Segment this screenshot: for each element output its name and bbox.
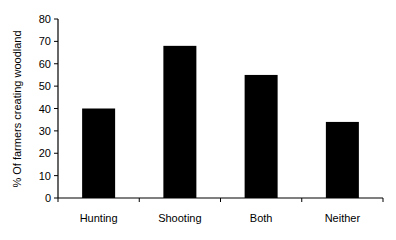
y-tick-label: 40: [39, 103, 51, 115]
y-tick-label: 30: [39, 125, 51, 137]
x-category-label: Hunting: [80, 212, 118, 224]
x-category-label: Neither: [325, 212, 361, 224]
y-tick-label: 60: [39, 58, 51, 70]
y-tick-label: 20: [39, 147, 51, 159]
bar-hunting: [82, 109, 115, 199]
y-axis: 01020304050607080: [39, 13, 58, 204]
bar-shooting: [163, 46, 196, 198]
x-category-label: Shooting: [158, 212, 201, 224]
y-tick-label: 80: [39, 13, 51, 25]
bar-neither: [326, 122, 359, 198]
y-axis-label: % Of farmers creating woodland: [11, 30, 23, 187]
bar-both: [245, 75, 278, 198]
bars: [82, 46, 359, 198]
y-tick-label: 70: [39, 35, 51, 47]
y-tick-label: 50: [39, 80, 51, 92]
x-axis: HuntingShootingBothNeither: [58, 198, 383, 224]
y-tick-label: 0: [45, 192, 51, 204]
x-category-label: Both: [250, 212, 273, 224]
y-tick-label: 10: [39, 170, 51, 182]
bar-chart: 01020304050607080 HuntingShootingBothNei…: [0, 0, 396, 240]
